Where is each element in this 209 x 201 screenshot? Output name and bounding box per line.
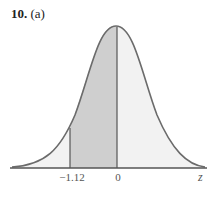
tick-label-zero: 0 — [115, 171, 121, 183]
normal-curve-figure — [0, 0, 209, 201]
shaded-area — [70, 26, 117, 168]
axis-label-z: z — [198, 170, 203, 185]
tick-label-neg-1-12: −1.12 — [59, 171, 84, 183]
